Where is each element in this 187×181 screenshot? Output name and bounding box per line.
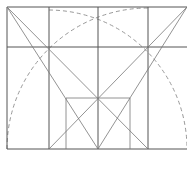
diagonal-tl-to-center-bottom [7,7,98,149]
diagonals [7,7,187,149]
dashed-arcs [7,8,187,149]
geometric-diagram [0,0,187,181]
frame-lines [7,7,187,149]
diagonal-tr-to-square-bl [49,7,187,149]
diagonal-tr-to-center-bottom [98,7,187,149]
diagonal-tl-to-square-br [7,7,148,149]
